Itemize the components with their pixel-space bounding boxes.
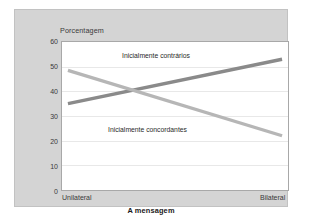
chart-figure: Porcentagem 60 50 40 30 20 10 0 Inicialm… <box>0 0 311 221</box>
y-axis-tick-labels: 60 50 40 30 20 10 0 <box>15 41 58 191</box>
y-axis-title: Porcentagem <box>60 26 104 35</box>
y-tick-20: 20 <box>18 138 58 145</box>
series-label-contrarios: Inicialmente contrários <box>122 52 190 59</box>
chart-frame: Porcentagem 60 50 40 30 20 10 0 Inicialm… <box>14 9 288 207</box>
x-axis-title: A mensagem <box>15 206 287 215</box>
y-tick-40: 40 <box>18 87 58 94</box>
y-tick-0: 0 <box>18 188 58 195</box>
x-tick-bilateral: Bilateral <box>260 194 285 201</box>
series-lines <box>62 42 288 190</box>
x-tick-unilateral: Unilateral <box>62 194 92 201</box>
y-tick-50: 50 <box>18 63 58 70</box>
y-tick-30: 30 <box>18 113 58 120</box>
y-tick-10: 10 <box>18 162 58 169</box>
y-tick-60: 60 <box>18 38 58 45</box>
series-label-concordantes: Inicialmente concordantes <box>108 126 187 133</box>
plot-area <box>61 41 289 191</box>
